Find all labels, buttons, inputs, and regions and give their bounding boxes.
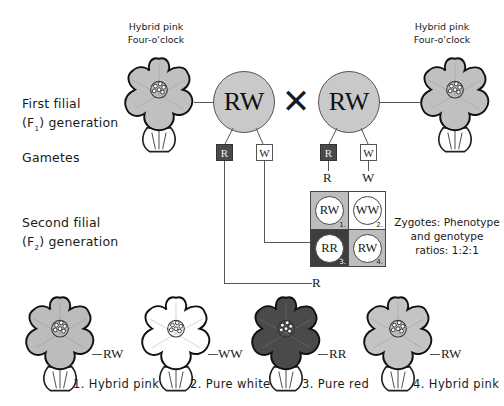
offspring-4-pointer (430, 354, 440, 355)
right-flower-connector (380, 102, 420, 103)
f1-label-line1: First filial (22, 94, 118, 113)
left-parent-label-line1: Hybrid pink (116, 20, 196, 33)
offspring-3-caption: 3. Pure red (302, 377, 369, 391)
zygotes-note-line1: Zygotes: Phenotype (389, 215, 504, 229)
f1-generation-label: First filial (F1) generation (22, 94, 118, 139)
punnett-cell-1: RW 1. (311, 192, 348, 229)
f1-suffix: ) generation (39, 115, 118, 130)
zygotes-note: Zygotes: Phenotype and genotype ratios: … (389, 215, 504, 257)
offspring-3-genotype: RR (329, 346, 346, 362)
punnett-column-header-w: W (362, 170, 374, 186)
punnett-cell-4: RW 4. (348, 229, 385, 266)
punnett-row-header-r: R (312, 275, 321, 291)
punnett-cell-3: RR 3. (311, 229, 348, 266)
w-gamete-line-vertical (264, 161, 265, 243)
left-parent-flower-label: Hybrid pink Four-o'clock (116, 20, 196, 46)
right-parent-label-line1: Hybrid pink (402, 20, 482, 33)
cross-icon: ✕ (281, 84, 311, 118)
offspring-1-pointer (92, 354, 102, 355)
right-parent-label-line2: Four-o'clock (402, 33, 482, 46)
punnett-square: RW 1. WW 2. RR 3. RW 4. (310, 191, 386, 267)
right-gamete-w: W (360, 144, 377, 161)
zygotes-note-line3: ratios: 1:2:1 (389, 243, 504, 257)
f2-generation-label: Second filial (F2) generation (22, 213, 118, 258)
left-flower-connector (194, 102, 214, 103)
punnett-cell-3-number: 3. (339, 258, 346, 266)
offspring-4-genotype: RW (441, 346, 461, 362)
offspring-2-pointer (208, 354, 218, 355)
right-parent-flower-icon (418, 54, 492, 154)
right-parent-flower-label: Hybrid pink Four-o'clock (402, 20, 482, 46)
f2-prefix: (F (22, 234, 34, 249)
punnett-column-header-r: R (323, 170, 332, 186)
f2-suffix: ) generation (39, 234, 118, 249)
punnett-cell-2-number: 2. (376, 221, 383, 229)
f1-label-line2: (F1) generation (22, 113, 118, 139)
r-gamete-line-horizontal (224, 283, 312, 284)
gametes-label: Gametes (22, 148, 80, 167)
offspring-1-genotype: RW (103, 346, 123, 362)
right-parent-genotype-circle: RW (318, 71, 380, 133)
left-parent-flower-icon (122, 54, 196, 154)
zygotes-note-line2: and genotype (389, 229, 504, 243)
punnett-cell-4-number: 4. (376, 258, 383, 266)
right-gamete-r: R (320, 144, 337, 161)
left-gamete-w: W (256, 144, 273, 161)
offspring-2-genotype: WW (218, 346, 243, 362)
offspring-3-pointer (318, 354, 328, 355)
left-parent-label-line2: Four-o'clock (116, 33, 196, 46)
r-gamete-line-vertical (224, 161, 225, 284)
f2-label-line2: (F2) generation (22, 232, 118, 258)
w-gamete-line-horizontal (264, 242, 312, 243)
f1-prefix: (F (22, 115, 34, 130)
left-parent-genotype-circle: RW (213, 71, 275, 133)
punnett-cell-2: WW 2. (348, 192, 385, 229)
left-gamete-r: R (216, 144, 233, 161)
offspring-4-caption: 4. Hybrid pink (413, 377, 499, 391)
f2-label-line1: Second filial (22, 213, 118, 232)
punnett-cell-1-number: 1. (339, 221, 346, 229)
